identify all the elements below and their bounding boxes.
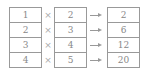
left-cell: 3 — [10, 38, 41, 53]
left-cell: 1 — [10, 8, 41, 23]
arrow-column — [89, 8, 103, 68]
left-column: 1 2 3 4 — [9, 7, 42, 68]
multiply-sign: × — [42, 38, 54, 53]
multiply-sign: × — [42, 23, 54, 38]
result-column: 2 6 12 20 — [107, 7, 140, 68]
left-cell: 2 — [10, 23, 41, 38]
arrow-right-icon — [89, 8, 103, 23]
result-cell: 6 — [108, 23, 139, 38]
middle-cell: 4 — [55, 38, 86, 53]
middle-cell: 5 — [55, 53, 86, 67]
middle-cell: 2 — [55, 8, 86, 23]
middle-column: 2 3 4 5 — [54, 7, 87, 68]
multiply-sign: × — [42, 53, 54, 68]
arrow-right-icon — [89, 38, 103, 53]
result-cell: 12 — [108, 38, 139, 53]
left-cell: 4 — [10, 53, 41, 67]
middle-cell: 3 — [55, 23, 86, 38]
arrow-right-icon — [89, 23, 103, 38]
multiply-sign: × — [42, 8, 54, 23]
result-cell: 20 — [108, 53, 139, 67]
result-cell: 2 — [108, 8, 139, 23]
arrow-right-icon — [89, 53, 103, 68]
operator-column: × × × × — [42, 8, 54, 68]
